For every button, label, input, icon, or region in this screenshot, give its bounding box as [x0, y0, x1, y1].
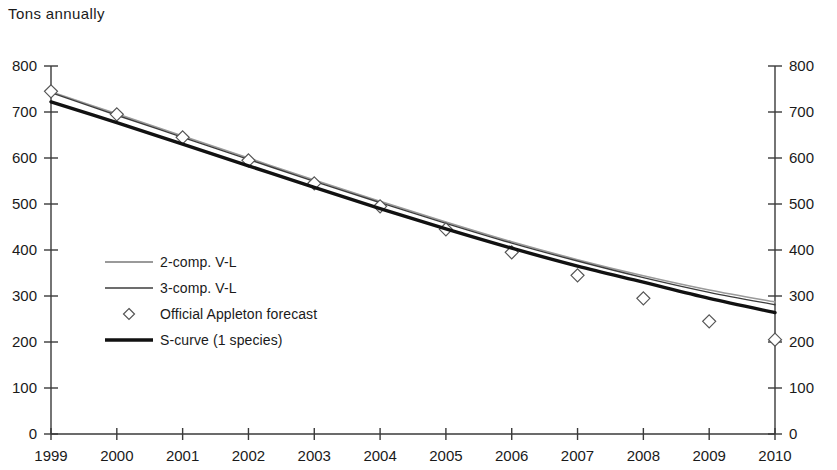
legend-item-label: S-curve (1 species) [160, 332, 283, 348]
legend-item: S-curve (1 species) [105, 332, 283, 348]
x-axis: 1999200020012002200320042005200620072008… [34, 428, 791, 464]
y-tick-label-right: 500 [789, 195, 814, 212]
y-tick-label-left: 0 [29, 425, 37, 442]
chart-container: Tons annually 0100200300400500600700800 … [0, 0, 837, 470]
data-point-marker [637, 292, 650, 305]
x-tick-label: 2000 [100, 447, 133, 464]
x-tick-label: 1999 [34, 447, 67, 464]
chart-legend: 2-comp. V-L3-comp. V-LOfficial Appleton … [105, 254, 317, 348]
legend-item: Official Appleton forecast [124, 306, 318, 322]
y-tick-label-right: 800 [789, 57, 814, 74]
data-series-layer [45, 85, 782, 346]
y-tick-label-left: 700 [12, 103, 37, 120]
y-axis-left: 0100200300400500600700800 [12, 57, 58, 442]
series-line [51, 93, 775, 305]
x-tick-label: 2003 [298, 447, 331, 464]
y-tick-label-right: 100 [789, 379, 814, 396]
y-tick-label-left: 800 [12, 57, 37, 74]
y-tick-label-right: 0 [789, 425, 797, 442]
series-1 [51, 92, 775, 302]
data-point-marker [45, 85, 58, 98]
data-point-marker [769, 333, 782, 346]
legend-item: 2-comp. V-L [105, 254, 237, 270]
legend-item-label: Official Appleton forecast [160, 306, 317, 322]
x-tick-label: 2005 [429, 447, 462, 464]
legend-item: 3-comp. V-L [105, 280, 237, 296]
x-tick-label: 2004 [363, 447, 396, 464]
series-3 [45, 85, 782, 346]
y-tick-label-left: 200 [12, 333, 37, 350]
series-line [51, 92, 775, 302]
x-tick-label: 2006 [495, 447, 528, 464]
y-tick-label-right: 300 [789, 287, 814, 304]
y-tick-label-right: 400 [789, 241, 814, 258]
series-2 [51, 93, 775, 305]
x-tick-label: 2008 [627, 447, 660, 464]
x-tick-label: 2002 [232, 447, 265, 464]
legend-swatch-diamond-icon [124, 309, 135, 320]
y-tick-label-left: 400 [12, 241, 37, 258]
x-tick-label: 2009 [692, 447, 725, 464]
y-tick-label-right: 600 [789, 149, 814, 166]
y-tick-label-left: 600 [12, 149, 37, 166]
data-point-marker [110, 108, 123, 121]
x-tick-label: 2010 [758, 447, 791, 464]
y-tick-label-left: 300 [12, 287, 37, 304]
x-tick-label: 2001 [166, 447, 199, 464]
y-axis-right: 0100200300400500600700800 [768, 57, 814, 442]
data-point-marker [703, 315, 716, 328]
legend-item-label: 2-comp. V-L [160, 254, 237, 270]
legend-item-label: 3-comp. V-L [160, 280, 237, 296]
x-tick-label: 2007 [561, 447, 594, 464]
y-tick-label-right: 200 [789, 333, 814, 350]
data-point-marker [571, 269, 584, 282]
y-tick-label-right: 700 [789, 103, 814, 120]
y-tick-label-left: 500 [12, 195, 37, 212]
chart-plot-area: 0100200300400500600700800 01002003004005… [0, 0, 837, 470]
y-tick-label-left: 100 [12, 379, 37, 396]
